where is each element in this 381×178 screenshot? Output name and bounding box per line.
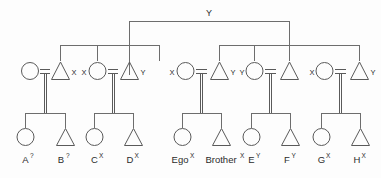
couple-4-female-circle <box>246 63 263 80</box>
sibling-bar-group-left <box>60 46 160 62</box>
child-c-circle <box>86 129 103 146</box>
couple-5-group: X Y G X H X <box>309 62 375 165</box>
couple-5-female-marker: X <box>309 68 314 77</box>
child-f-label: F <box>284 154 290 165</box>
couple-4-male-triangle <box>281 62 299 80</box>
kinship-canvas: Y X <box>0 0 381 178</box>
couple-1-female-circle <box>22 63 39 80</box>
child-h-superscript: X <box>362 152 367 159</box>
child-brother-label: Brother <box>205 154 236 165</box>
child-ego-superscript: X <box>190 152 195 159</box>
couple-2-male-marker: Y <box>140 68 145 77</box>
child-f-superscript: Y <box>292 152 297 159</box>
couple-4-group: Y E Y F Y <box>239 62 299 165</box>
kinship-diagram: Y X <box>0 0 381 178</box>
apex-marker-label: Y <box>206 8 212 18</box>
child-a-circle <box>17 129 34 146</box>
child-d-superscript: X <box>135 152 140 159</box>
child-b-triangle <box>57 129 75 146</box>
child-d-label: D <box>127 154 134 165</box>
child-d-triangle <box>125 129 143 146</box>
child-c-label: C <box>91 154 98 165</box>
couple-3-male-marker: Y <box>230 68 235 77</box>
child-brother-triangle <box>213 129 231 146</box>
couple-3-female-marker: X <box>169 68 174 77</box>
couple-2-female-circle <box>89 63 106 80</box>
child-e-circle <box>243 129 260 146</box>
child-b-label: B <box>58 154 64 165</box>
child-e-label: E <box>248 154 254 165</box>
child-g-circle <box>313 129 330 146</box>
couple-4-female-marker: Y <box>239 68 244 77</box>
child-a-label: A <box>22 154 29 165</box>
couple-3-group: X Y Ego X Brother X <box>169 62 245 165</box>
child-g-label: G <box>318 154 325 165</box>
child-a-superscript: ? <box>30 152 34 159</box>
child-h-triangle <box>352 129 370 146</box>
child-c-superscript: X <box>99 152 104 159</box>
couple-1-male-marker: X <box>71 68 76 77</box>
couple-3-female-circle <box>177 63 194 80</box>
child-f-triangle <box>282 129 300 146</box>
sibling-bar-group-right <box>219 46 360 62</box>
child-g-superscript: X <box>326 152 331 159</box>
couple-5-male-triangle <box>351 62 369 80</box>
child-brother-superscript: X <box>240 152 245 159</box>
couple-5-female-circle <box>316 63 333 80</box>
apex-group: Y <box>129 8 290 75</box>
child-e-superscript: Y <box>256 152 261 159</box>
couple-1-group: X A ? B ? <box>17 62 77 165</box>
couple-3-male-triangle <box>211 62 229 80</box>
couple-2-female-marker: X <box>81 68 86 77</box>
child-ego-circle <box>174 129 191 146</box>
child-h-label: H <box>354 154 361 165</box>
child-ego-label: Ego <box>172 154 189 165</box>
couple-1-male-triangle <box>52 62 70 80</box>
couple-5-male-marker: Y <box>370 68 375 77</box>
child-b-superscript: ? <box>66 152 70 159</box>
couple-2-group: X Y C X D X <box>81 62 145 165</box>
